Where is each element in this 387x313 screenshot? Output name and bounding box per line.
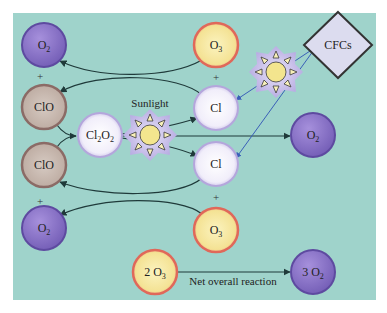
cl-upper-label: Cl (210, 101, 221, 116)
reaction-arrows (57, 60, 290, 272)
o2-right-label: O2 (307, 128, 320, 144)
cl-lower-label: Cl (210, 157, 221, 172)
cfcs-label: CFCs (324, 38, 351, 53)
clo-lower-label: ClO (34, 158, 54, 173)
o3-net-label: 2 O3 (144, 265, 166, 281)
o3-top-label: O3 (210, 38, 223, 54)
sunlight-label: Sunlight (131, 97, 168, 109)
plus-sign-left-top: + (37, 70, 43, 82)
net-reaction-label: Net overall reaction (189, 275, 276, 287)
plus-sign-right-bottom: + (213, 191, 219, 203)
o2-net-label: 3 O2 (302, 265, 324, 281)
sunlight-icon (123, 109, 177, 161)
cl2o2-label: Cl2O2 (86, 128, 114, 144)
clo-upper-label: ClO (34, 100, 54, 115)
plus-sign-right-top: + (213, 71, 219, 83)
plus-sign-left-bottom: + (37, 195, 43, 207)
o3-bottom-label: O3 (210, 223, 223, 239)
o2-bottom-left-label: O2 (38, 221, 51, 237)
o2-top-left-label: O2 (38, 38, 51, 54)
sunlight-icon-cfc (249, 46, 303, 98)
